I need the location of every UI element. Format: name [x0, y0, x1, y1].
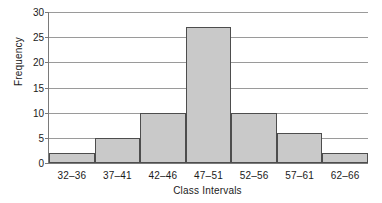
x-tick-label: 57–61 [285, 170, 314, 181]
histogram-bar [49, 153, 95, 163]
y-tick-label: 15 [33, 82, 44, 93]
histogram-bar [231, 113, 277, 163]
histogram-bar [95, 138, 141, 163]
x-tick-label: 47–51 [194, 170, 223, 181]
y-tick-label: 25 [33, 32, 44, 43]
y-tick-label: 30 [33, 7, 44, 18]
y-tick-label: 0 [38, 158, 44, 169]
x-tick-label: 42–46 [149, 170, 178, 181]
y-axis-title: Frequency [13, 7, 24, 117]
x-tick-label: 62–66 [331, 170, 360, 181]
x-tick-label: 37–41 [103, 170, 132, 181]
histogram-bar [186, 27, 232, 163]
bars-layer [49, 12, 368, 163]
histogram-bar [322, 153, 368, 163]
plot-area: 051015202530 32–3637–4142–4647–5152–5657… [48, 12, 368, 164]
histogram-bar [277, 133, 323, 163]
y-tick-label: 5 [38, 132, 44, 143]
x-tick-label: 32–36 [57, 170, 86, 181]
histogram-chart: Frequency 051015202530 32–3637–4142–4647… [0, 0, 382, 203]
y-tick-label: 20 [33, 57, 44, 68]
x-axis-title: Class Intervals [48, 185, 367, 196]
y-tick-label: 10 [33, 107, 44, 118]
histogram-bar [140, 113, 186, 163]
y-tick-mark [45, 163, 49, 164]
x-tick-label: 52–56 [240, 170, 269, 181]
